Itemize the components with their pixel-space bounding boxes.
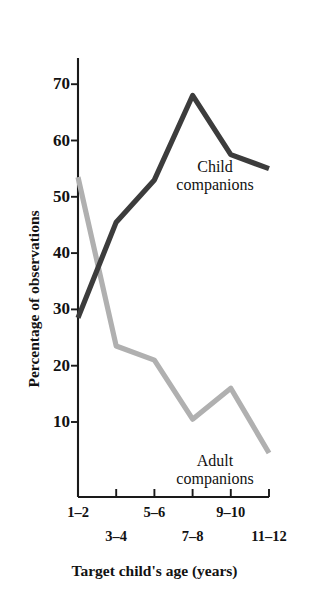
series-line-adult-companions: [78, 177, 269, 453]
series-annotation-adult-companions: Adult companions: [150, 452, 280, 488]
series-annotation-adult-line2: companions: [150, 470, 280, 488]
series-annotation-child-companions: Child companions: [150, 158, 280, 194]
y-axis-title: Percentage of observations: [25, 139, 43, 459]
x-axis-ticks: [78, 489, 269, 497]
series-line-child-companions: [78, 95, 269, 317]
series-annotation-adult-line1: Adult: [150, 452, 280, 470]
series-annotation-child-line2: companions: [150, 176, 280, 194]
x-axis-tick-label: 7–8: [165, 529, 221, 544]
series-annotation-child-line1: Child: [150, 158, 280, 176]
x-axis-tick-label: 1–2: [50, 505, 106, 520]
x-axis-tick-label: 11–12: [241, 529, 297, 544]
y-axis-tick-label: 70: [30, 75, 70, 92]
x-axis-tick-label: 9–10: [203, 505, 259, 520]
x-axis-title: Target child's age (years): [0, 562, 309, 580]
x-axis-tick-label: 5–6: [126, 505, 182, 520]
chart-container: 70605040302010 1–23–45–67–89–1011–12 Per…: [0, 0, 309, 600]
x-axis-tick-label: 3–4: [88, 529, 144, 544]
axis-lines: [78, 58, 269, 497]
